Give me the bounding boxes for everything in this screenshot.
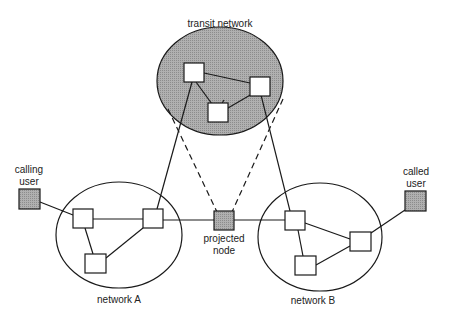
transit-node	[208, 103, 228, 122]
calling-user-label-line2: user	[6, 176, 52, 188]
network-b-node	[295, 256, 316, 275]
transit-node	[184, 63, 204, 82]
network-a-node	[85, 254, 106, 273]
network-b-link	[305, 223, 350, 239]
projected-node-label-line2: node	[196, 245, 252, 257]
called-user-label: called user	[393, 166, 439, 190]
network-a-node	[143, 209, 163, 228]
transit-network-label: transit network	[180, 18, 260, 30]
calling-user-label: calling user	[6, 164, 52, 188]
projected-node	[214, 211, 234, 230]
network-diagram	[0, 0, 449, 322]
calling-user-label-line1: calling	[6, 164, 52, 176]
network-a-link	[85, 228, 93, 254]
network-b-node	[285, 211, 305, 230]
called-user-label-line1: called	[393, 166, 439, 178]
called-user-node	[405, 191, 426, 211]
network-b-link	[316, 246, 350, 265]
network-b-link	[298, 230, 303, 256]
network-a-node	[73, 209, 93, 228]
called-user-label-line2: user	[393, 178, 439, 190]
network-b-label: network B	[283, 295, 343, 307]
network-b-node	[350, 232, 371, 251]
projected-node-label: projected node	[196, 233, 252, 257]
network-a-link	[106, 228, 143, 258]
network-a-ellipse	[56, 182, 182, 288]
transit-node	[250, 77, 270, 96]
link-transit-to-b	[261, 95, 290, 211]
network-a-label: network A	[89, 294, 149, 306]
projected-node-label-line1: projected	[196, 233, 252, 245]
calling-user-node	[19, 189, 40, 209]
